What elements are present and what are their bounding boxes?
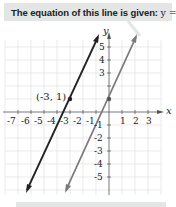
- coordinate-graph: [0, 0, 176, 207]
- bottom-callout: [16, 202, 166, 207]
- y-tick: -3: [94, 146, 103, 156]
- y-tick: -1: [94, 120, 103, 130]
- line-gray-arrow-top-icon: [131, 34, 137, 43]
- point-0-1: [107, 97, 111, 101]
- x-tick: -7: [7, 116, 16, 126]
- x-tick: 2: [133, 116, 139, 126]
- x-axis-label: x: [166, 105, 172, 116]
- y-tick: -2: [94, 133, 103, 143]
- y-tick: -5: [94, 172, 103, 182]
- point-neg3-1: [68, 97, 72, 101]
- callout-pointer: [128, 21, 140, 36]
- point-label: (-3, 1): [36, 91, 66, 102]
- x-tick: -5: [34, 116, 43, 126]
- x-tick: -6: [21, 116, 30, 126]
- y-axis-label: y: [103, 25, 109, 36]
- x-tick: 1: [120, 116, 126, 126]
- x-tick: 3: [146, 116, 152, 126]
- x-axis-arrow-icon: [157, 110, 164, 114]
- x-tick: -4: [47, 116, 56, 126]
- y-tick: -4: [94, 159, 103, 169]
- x-tick: -3: [60, 116, 69, 126]
- y-tick: 3: [99, 68, 105, 78]
- y-tick: 4: [99, 55, 105, 65]
- y-tick: 5: [99, 42, 105, 52]
- x-tick: -2: [73, 116, 82, 126]
